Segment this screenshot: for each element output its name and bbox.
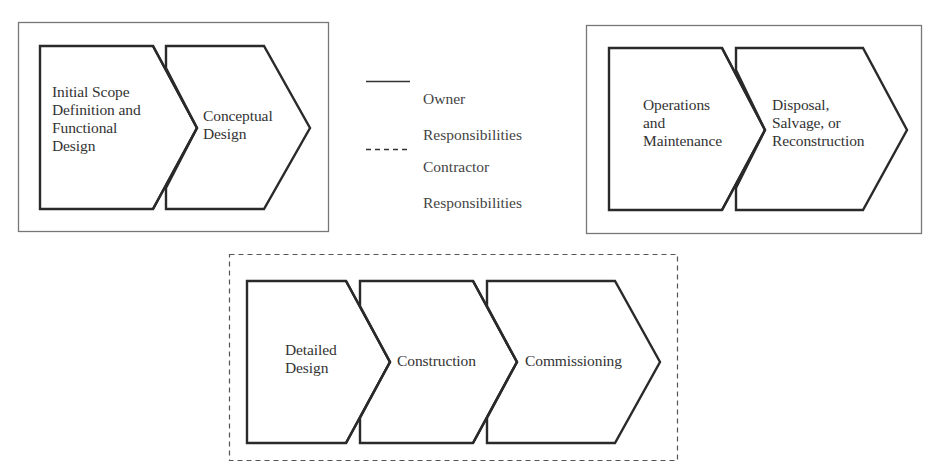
step-label-initial-scope: Initial Scope Definition and Functional … — [52, 83, 141, 155]
legend-contractor-line2: Responsibilities — [423, 194, 522, 211]
legend-owner: Owner Responsibilities — [423, 72, 522, 144]
project-lifecycle-diagram: Initial Scope Definition and Functional … — [0, 0, 940, 474]
legend-contractor: Contractor Responsibilities — [423, 140, 522, 212]
step-label-conceptual-design: Conceptual Design — [203, 107, 273, 143]
step-label-construction: Construction — [397, 352, 476, 370]
legend-owner-line1: Owner — [423, 90, 465, 107]
step-label-commissioning: Commissioning — [525, 352, 622, 370]
step-label-operations: Operations and Maintenance — [643, 96, 722, 150]
step-label-detailed-design: Detailed Design — [285, 341, 337, 377]
legend-contractor-line1: Contractor — [423, 158, 489, 175]
step-label-disposal: Disposal, Salvage, or Reconstruction — [772, 96, 864, 150]
